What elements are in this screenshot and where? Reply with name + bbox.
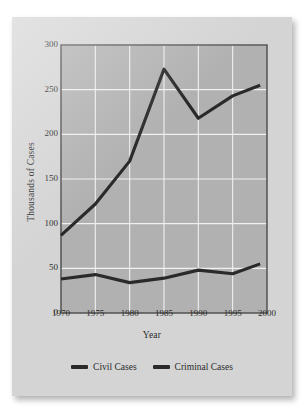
line-chart: 050100150200250300 197019751980198519901… — [12, 17, 292, 396]
x-tick-label: 1970 — [44, 309, 78, 318]
x-tick-label: 1980 — [113, 309, 147, 318]
y-axis-title: Thousands of Cases — [26, 122, 36, 242]
y-tick-label: 300 — [30, 40, 58, 49]
x-tick-label: 1985 — [147, 309, 181, 318]
x-tick-label: 1990 — [181, 309, 215, 318]
y-tick-label: 50 — [30, 263, 58, 272]
chart-legend: Civil CasesCriminal Cases — [12, 362, 292, 372]
x-axis-title: Year — [12, 330, 292, 340]
legend-line-swatch-icon — [71, 365, 88, 369]
figure-card: 050100150200250300 197019751980198519901… — [12, 17, 292, 396]
legend-item[interactable]: Civil Cases — [71, 362, 137, 372]
x-tick-label: 1975 — [78, 309, 112, 318]
legend-label: Criminal Cases — [175, 362, 233, 372]
legend-line-swatch-icon — [153, 365, 170, 369]
x-tick-label: 2000 — [250, 309, 284, 318]
x-tick-label: 1995 — [216, 309, 250, 318]
legend-item[interactable]: Criminal Cases — [153, 362, 233, 372]
legend-label: Civil Cases — [93, 362, 137, 372]
y-tick-label: 250 — [30, 85, 58, 94]
x-axis-tick-labels: 1970197519801985199019952000 — [12, 309, 292, 323]
